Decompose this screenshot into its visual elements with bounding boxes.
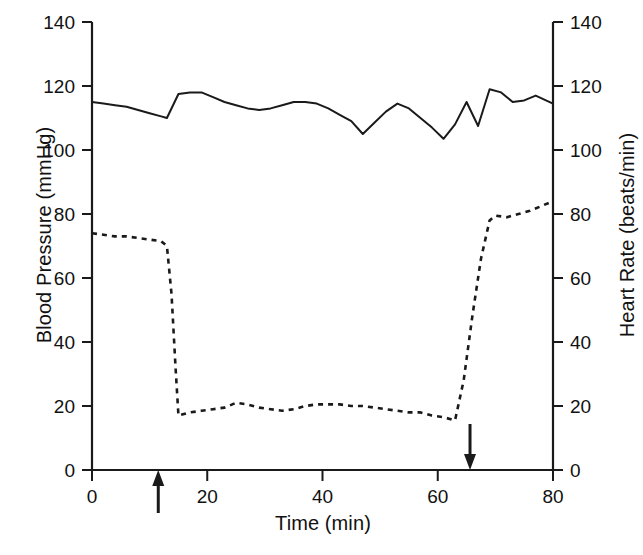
y-tick-label-right: 120 [570, 76, 602, 97]
x-tick-label: 60 [427, 486, 448, 507]
series-heart-rate-line [92, 201, 553, 420]
y-tick-label: 120 [43, 76, 75, 97]
y-tick-label-right: 40 [570, 332, 591, 353]
y-tick-label: 20 [54, 396, 75, 417]
y-tick-label: 40 [54, 332, 75, 353]
y-tick-label-right: 20 [570, 396, 591, 417]
y-tick-label: 0 [64, 460, 75, 481]
x-tick-label: 80 [542, 486, 563, 507]
plot-area: 020406080100120140 020406080100120140 02… [0, 0, 643, 555]
drug-withdrawal-marker-head [464, 454, 476, 470]
y-axis-left-ticks: 020406080100120140 [43, 12, 92, 481]
x-tick-label: 40 [312, 486, 333, 507]
drug-administration-marker-head [152, 470, 164, 486]
y-tick-label-right: 0 [570, 460, 581, 481]
y-tick-label: 60 [54, 268, 75, 289]
y-tick-label-right: 100 [570, 140, 602, 161]
y-tick-label-right: 140 [570, 12, 602, 33]
series-blood-pressure-line [92, 89, 553, 139]
x-tick-label: 0 [87, 486, 98, 507]
y-axis-right-ticks: 020406080100120140 [553, 12, 602, 481]
y-tick-label: 100 [43, 140, 75, 161]
y-tick-label: 140 [43, 12, 75, 33]
y-tick-label: 80 [54, 204, 75, 225]
x-tick-label: 20 [197, 486, 218, 507]
y-tick-label-right: 80 [570, 204, 591, 225]
y-tick-label-right: 60 [570, 268, 591, 289]
chart-figure: Blood Pressure (mmHg) Heart Rate (beats/… [0, 0, 643, 555]
